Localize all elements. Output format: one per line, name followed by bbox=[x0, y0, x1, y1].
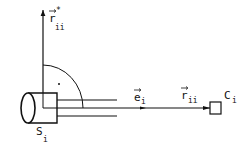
label-r-ii: r ii bbox=[181, 87, 198, 106]
diagram: r * ii e i r ii C i S i bbox=[0, 0, 250, 145]
svg-text:i: i bbox=[141, 97, 146, 106]
svg-text:e: e bbox=[134, 91, 141, 104]
svg-text:ii: ii bbox=[55, 23, 65, 32]
r-ii-arrowhead bbox=[203, 106, 210, 110]
label-c-i: C i bbox=[224, 89, 237, 105]
box-c-i bbox=[210, 102, 221, 114]
svg-text:r: r bbox=[181, 89, 188, 102]
svg-text:ii: ii bbox=[188, 96, 198, 105]
diagram-canvas: r * ii e i r ii C i S i bbox=[0, 0, 250, 145]
right-angle-dot bbox=[58, 83, 60, 85]
label-r-star-ii: r * ii bbox=[49, 6, 65, 32]
label-e-i: e i bbox=[134, 89, 146, 107]
svg-text:i: i bbox=[232, 96, 237, 105]
svg-text:i: i bbox=[43, 135, 48, 144]
label-s-i: S i bbox=[36, 125, 48, 144]
svg-text:S: S bbox=[36, 125, 43, 138]
svg-text:*: * bbox=[56, 6, 61, 15]
e-i-arrowhead bbox=[140, 107, 146, 110]
svg-text:C: C bbox=[224, 89, 231, 102]
